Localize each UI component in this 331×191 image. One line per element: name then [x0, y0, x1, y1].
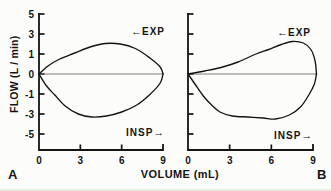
insp-annotation-b-text: INSP — [274, 130, 301, 141]
scan-artifact-edge — [0, 189, 331, 191]
y-axis-title: FLOW (L / min) — [9, 19, 20, 129]
y-tick-label-a: 0 — [28, 69, 34, 80]
insp-annotation-a: INSP→ — [126, 127, 164, 138]
x-tick-label-a: 9 — [160, 155, 166, 166]
x-tick-label-b: 9 — [310, 155, 316, 166]
inspiratory-limb-b — [188, 74, 317, 119]
y-tick-label-a: -5 — [25, 129, 34, 140]
x-tick-label-a: 3 — [78, 155, 84, 166]
right-arrow-icon: → — [153, 126, 164, 138]
expiratory-limb-b — [188, 41, 317, 74]
x-tick-label-a: 6 — [119, 155, 125, 166]
left-arrow-icon: ← — [131, 25, 142, 37]
expiratory-limb-a — [39, 43, 163, 74]
right-arrow-icon: → — [301, 129, 312, 141]
y-tick-label-a: -3 — [25, 109, 34, 120]
panel-a-label: A — [8, 168, 17, 181]
y-tick-label-a: 3 — [28, 29, 34, 40]
y-tick-label-a: -1 — [25, 89, 34, 100]
inspiratory-limb-a — [39, 74, 163, 117]
x-axis-title: VOLUME (mL) — [120, 169, 240, 180]
y-tick-label-a: 1 — [28, 49, 34, 60]
y-tick-label-a: 5 — [28, 9, 34, 20]
exp-annotation-b: ←EXP — [277, 27, 311, 38]
flow-volume-loops-figure: 5310-1-3-503690369 FLOW (L / min) VOLUME… — [0, 0, 331, 191]
exp-annotation-a: ←EXP — [131, 26, 165, 37]
insp-annotation-b: INSP→ — [274, 130, 312, 141]
exp-annotation-a-text: EXP — [142, 26, 165, 37]
insp-annotation-a-text: INSP — [126, 127, 153, 138]
x-tick-label-b: 6 — [269, 155, 275, 166]
x-tick-label-a: 0 — [36, 155, 42, 166]
exp-annotation-b-text: EXP — [288, 27, 311, 38]
panel-b-label: B — [317, 168, 326, 181]
x-tick-label-b: 3 — [227, 155, 233, 166]
left-arrow-icon: ← — [277, 26, 288, 38]
x-tick-label-b: 0 — [185, 155, 191, 166]
